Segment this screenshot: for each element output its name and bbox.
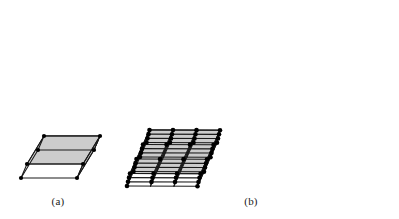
unit-cell-lattice-point [25, 162, 29, 166]
lattice-diagram-canvas [0, 0, 399, 219]
lattice-lattice-point [147, 128, 152, 133]
lattice-lattice-point [194, 128, 199, 133]
lattice-lattice-point [195, 184, 200, 189]
lattice-lattice-point [168, 140, 173, 145]
unit-cell-lattice-point [42, 134, 46, 138]
lattice-lattice-point [203, 165, 208, 170]
lattice-lattice-point [125, 184, 130, 189]
lattice-lattice-point [139, 151, 144, 156]
lattice-lattice-point [158, 157, 163, 162]
lattice-lattice-point [202, 169, 207, 174]
unit-cell-lattice-point [98, 134, 102, 138]
lattice-lattice-point [146, 132, 151, 137]
lattice-lattice-point [191, 140, 196, 145]
lattice-lattice-point [196, 180, 201, 185]
lattice-lattice-point [150, 175, 155, 180]
lattice-lattice-point [210, 147, 215, 152]
lattice-lattice-point [144, 140, 149, 145]
lattice-lattice-point [151, 171, 156, 176]
panel-b-caption: (b) [227, 196, 275, 207]
lattice-lattice-point [132, 165, 137, 170]
lattice-lattice-point [131, 169, 136, 174]
unit-cell-lattice-point [19, 176, 23, 180]
lattice-lattice-point [126, 180, 131, 185]
lattice-lattice-point [149, 180, 154, 185]
lattice-lattice-point [174, 176, 179, 181]
lattice-lattice-point [208, 155, 213, 160]
unit-cell-lattice-point [92, 148, 96, 152]
lattice-lattice-point [175, 171, 180, 176]
lattice-figure: (a) (b) [0, 0, 399, 219]
lattice-lattice-point [133, 161, 138, 166]
lattice-lattice-point [138, 155, 143, 160]
unit-cell-lattice-point [36, 148, 40, 152]
lattice-lattice-point [218, 128, 223, 133]
lattice-lattice-point [216, 136, 221, 141]
panel-a-caption: (a) [36, 196, 80, 207]
lattice-lattice-point [171, 128, 176, 133]
lattice-lattice-point [181, 157, 186, 162]
lattice-lattice-point [169, 136, 174, 141]
lattice-lattice-point [127, 175, 132, 180]
unit-cell-lattice-point [81, 162, 85, 166]
lattice-lattice-point [217, 132, 222, 137]
lattice-lattice-point [197, 176, 202, 181]
lattice-lattice-point [193, 132, 198, 137]
lattice-lattice-point [145, 136, 150, 141]
lattice-lattice-point [192, 136, 197, 141]
lattice-lattice-point [204, 161, 209, 166]
lattice-lattice-point [173, 180, 178, 185]
lattice-lattice-point [140, 146, 145, 151]
unit-cell-lattice-point [75, 176, 79, 180]
lattice-lattice-point [170, 132, 175, 137]
lattice-lattice-point [209, 151, 214, 156]
lattice-lattice-point [215, 140, 220, 145]
